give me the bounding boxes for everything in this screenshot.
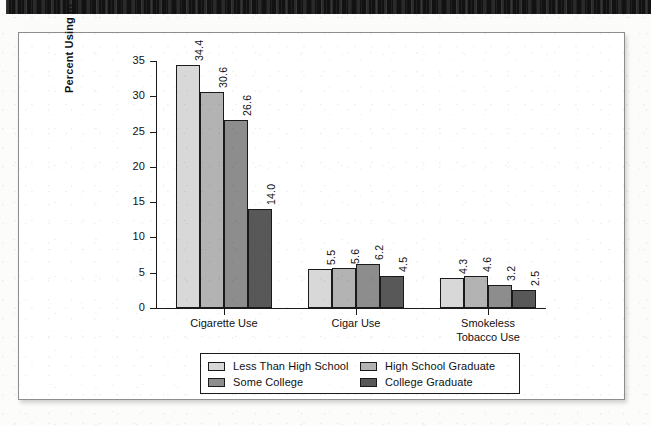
legend-item-label: High School Graduate [385, 360, 495, 372]
scan-edge-bar [6, 0, 651, 14]
bar-value-label: 6.2 [373, 245, 385, 260]
y-tick-label-wrap: 35 [115, 61, 145, 62]
legend-item-college-graduate: College Graduate [360, 376, 512, 388]
bar-value-label: 3.2 [505, 266, 517, 281]
y-tick-mark [150, 167, 156, 168]
bar [356, 264, 380, 308]
y-tick-label: 25 [115, 125, 145, 137]
y-tick-label: 15 [115, 195, 145, 207]
y-tick-mark [150, 61, 156, 62]
legend-row: Some College College Graduate [208, 374, 512, 390]
bar [464, 276, 488, 308]
bar [512, 290, 536, 308]
bar-value-label: 2.5 [529, 271, 541, 286]
bar-value-label: 5.6 [349, 249, 361, 264]
bar-value-label: 30.6 [217, 67, 229, 88]
y-tick-label: 10 [115, 230, 145, 242]
y-axis-title: Percent Using in Past Month [63, 0, 75, 93]
y-tick-label-wrap: 20 [115, 167, 145, 168]
y-tick-mark [150, 96, 156, 97]
legend-swatch-icon [208, 378, 225, 387]
bar-value-label: 34.4 [193, 40, 205, 61]
scanned-page: 05101520253035 Percent Using in Past Mon… [0, 0, 651, 426]
bar-value-label: 4.3 [457, 258, 469, 273]
legend-row: Less Than High School High School Gradua… [208, 358, 512, 374]
bar [488, 285, 512, 308]
bar-value-label: 26.6 [241, 95, 253, 116]
legend: Less Than High School High School Gradua… [200, 353, 520, 394]
legend-item-label: Some College [233, 376, 303, 388]
x-tick-mark [224, 309, 225, 315]
y-tick-label-wrap: 0 [115, 308, 145, 309]
legend-item-high-school-graduate: High School Graduate [360, 360, 512, 372]
y-tick-label-wrap: 25 [115, 132, 145, 133]
y-tick-mark [150, 308, 156, 309]
bar-value-label: 4.6 [481, 256, 493, 271]
legend-item-some-college: Some College [208, 376, 360, 388]
y-tick-mark [150, 273, 156, 274]
plot-area: 05101520253035 Percent Using in Past Mon… [19, 33, 624, 399]
x-tick-mark [488, 309, 489, 315]
y-tick-label-wrap: 15 [115, 202, 145, 203]
y-tick-label-wrap: 5 [115, 273, 145, 274]
y-tick-label: 5 [115, 266, 145, 278]
figure-frame: 05101520253035 Percent Using in Past Mon… [18, 32, 625, 400]
bar [380, 276, 404, 308]
legend-item-label: College Graduate [385, 376, 473, 388]
y-tick-mark [150, 237, 156, 238]
bar-value-label: 5.5 [325, 250, 337, 265]
x-category-label: Cigarette Use [164, 317, 284, 331]
bar [200, 92, 224, 308]
bar [308, 269, 332, 308]
bar [440, 278, 464, 308]
y-tick-label: 30 [115, 89, 145, 101]
bar [248, 209, 272, 308]
bar-value-label: 14.0 [265, 184, 277, 205]
y-tick-label: 35 [115, 54, 145, 66]
legend-swatch-icon [360, 378, 377, 387]
bar-value-label: 4.5 [397, 257, 409, 272]
y-tick-mark [150, 132, 156, 133]
legend-swatch-icon [360, 362, 377, 371]
legend-item-less-than-high-school: Less Than High School [208, 360, 360, 372]
x-category-label: Cigar Use [296, 317, 416, 331]
y-tick-label: 20 [115, 160, 145, 172]
bar [224, 120, 248, 308]
y-tick-label-wrap: 30 [115, 96, 145, 97]
legend-item-label: Less Than High School [233, 360, 349, 372]
x-tick-mark [356, 309, 357, 315]
bar [176, 65, 200, 308]
legend-swatch-icon [208, 362, 225, 371]
y-tick-mark [150, 202, 156, 203]
y-axis-line [156, 61, 157, 309]
x-category-label: Smokeless Tobacco Use [428, 317, 548, 344]
bar [332, 268, 356, 308]
y-tick-label-wrap: 10 [115, 237, 145, 238]
y-tick-label: 0 [115, 301, 145, 313]
